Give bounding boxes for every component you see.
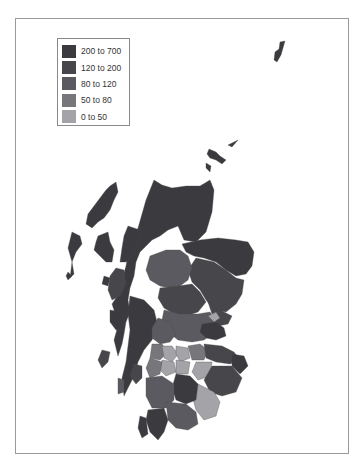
legend-label: 80 to 120 <box>81 79 116 89</box>
scotland-choropleth-map <box>0 0 363 465</box>
region-lewis <box>86 182 118 228</box>
region-shetland <box>274 41 285 62</box>
region-argyll-islands <box>98 350 110 368</box>
legend-item: 120 to 200 <box>62 59 129 75</box>
region-lanark-2 <box>176 360 190 374</box>
legend-item: 0 to 50 <box>62 109 129 125</box>
legend-swatch <box>62 110 76 123</box>
legend-swatch <box>62 77 76 90</box>
region-glasgow-3 <box>176 346 190 362</box>
region-orkney-islet-2 <box>228 140 238 147</box>
region-dumfries <box>166 402 198 430</box>
region-lanark-1 <box>160 360 176 376</box>
map-legend: 200 to 700 120 to 200 80 to 120 50 to 80… <box>57 38 130 126</box>
legend-item: 50 to 80 <box>62 92 129 108</box>
legend-swatch <box>62 45 76 58</box>
legend-label: 120 to 200 <box>81 63 121 73</box>
legend-swatch <box>62 94 76 107</box>
region-skye <box>94 232 114 262</box>
region-arran <box>118 378 124 394</box>
region-harris <box>68 232 82 278</box>
region-galloway <box>146 408 168 440</box>
region-orkney <box>207 149 226 164</box>
legend-swatch <box>62 61 76 74</box>
region-ayr-north <box>146 358 162 378</box>
region-glasgow-2 <box>162 346 178 362</box>
legend-item: 80 to 120 <box>62 76 129 92</box>
region-orkney-islet <box>206 163 211 172</box>
legend-label: 0 to 50 <box>81 112 107 122</box>
region-south-lanark <box>172 374 198 404</box>
legend-item: 200 to 700 <box>62 43 129 59</box>
legend-label: 50 to 80 <box>81 95 112 105</box>
region-inverness <box>146 250 192 288</box>
legend-label: 200 to 700 <box>81 46 121 56</box>
